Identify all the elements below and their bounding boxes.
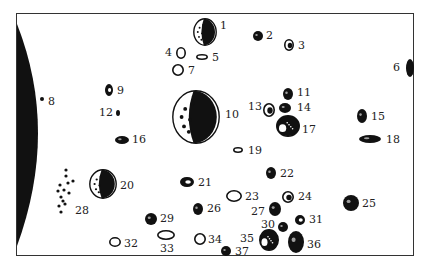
object-label-28: 28 [75, 205, 89, 216]
object-21-icon [177, 174, 197, 190]
object-6-icon [403, 56, 417, 80]
object-12-icon [113, 107, 123, 119]
object-17-icon [273, 112, 303, 140]
object-10-icon [169, 87, 223, 147]
object-22-icon [263, 164, 279, 182]
object-15-icon [354, 106, 370, 126]
object-2-icon [250, 28, 266, 44]
object-label-27: 27 [251, 206, 265, 217]
object-20-icon [86, 166, 120, 202]
object-label-5: 5 [212, 52, 219, 63]
object-label-36: 36 [307, 239, 321, 250]
object-label-22: 22 [280, 168, 294, 179]
object-label-7: 7 [188, 65, 195, 76]
object-27-icon [266, 199, 284, 219]
object-label-37: 37 [235, 246, 249, 257]
object-3-icon [281, 36, 297, 54]
object-label-9: 9 [117, 85, 124, 96]
object-label-10: 10 [225, 109, 239, 120]
object-label-13: 13 [248, 101, 262, 112]
object-label-4: 4 [165, 47, 172, 58]
object-label-16: 16 [132, 134, 146, 145]
object-4-icon [173, 44, 189, 62]
object-label-15: 15 [371, 111, 385, 122]
object-label-11: 11 [297, 87, 311, 98]
object-16-icon [112, 133, 132, 147]
object-label-6: 6 [393, 62, 400, 73]
object-7-icon [169, 61, 187, 79]
object-32-icon [106, 234, 124, 250]
object-label-31: 31 [309, 214, 323, 225]
object-label-32: 32 [124, 238, 138, 249]
object-label-8: 8 [48, 96, 55, 107]
object-label-20: 20 [120, 180, 134, 191]
object-35-icon [256, 226, 282, 254]
object-23-icon [223, 187, 245, 205]
object-33-icon [154, 227, 178, 243]
object-label-18: 18 [386, 134, 400, 145]
object-25-icon [340, 192, 362, 214]
object-label-33: 33 [160, 243, 174, 254]
object-label-17: 17 [302, 124, 316, 135]
object-1-icon [190, 15, 220, 49]
object-label-2: 2 [266, 30, 273, 41]
object-label-35: 35 [240, 233, 254, 244]
object-label-24: 24 [298, 191, 312, 202]
object-label-3: 3 [298, 40, 305, 51]
object-label-26: 26 [207, 203, 221, 214]
object-label-1: 1 [220, 20, 227, 31]
object-19-icon [230, 144, 246, 156]
object-18-icon [356, 132, 384, 146]
object-34-icon [191, 230, 209, 248]
object-label-19: 19 [248, 145, 262, 156]
object-label-25: 25 [362, 198, 376, 209]
object-36-icon [285, 228, 307, 256]
object-label-29: 29 [160, 213, 174, 224]
object-label-21: 21 [198, 177, 212, 188]
object-9-icon [102, 81, 116, 99]
object-8-icon [37, 94, 47, 104]
object-29-icon [142, 210, 160, 228]
object-31-icon [292, 212, 308, 228]
object-label-12: 12 [99, 107, 113, 118]
object-5-icon [193, 51, 211, 63]
object-37-icon [218, 243, 234, 259]
object-label-23: 23 [245, 191, 259, 202]
object-26-icon [190, 200, 206, 218]
